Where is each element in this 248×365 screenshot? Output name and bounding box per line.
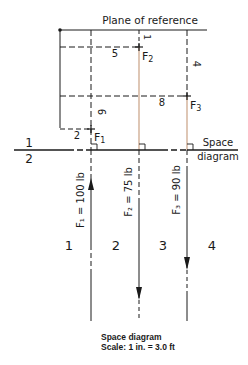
caption-title: Space diagram [101,332,162,342]
space-number-4: 4 [208,238,216,253]
f3-point-label: F3 [190,99,201,113]
plane-of-reference-label: Plane of reference [102,14,198,26]
f1-point-label: F1 [94,131,105,145]
space-number-3: 3 [159,238,167,253]
dim-f1-vertical: 6 [96,109,107,115]
right-angle-markers [91,144,193,150]
f1-arrowhead-up [88,178,94,190]
dim-f2-horizontal: 5 [112,48,118,59]
f2-point-label: F2 [142,50,153,64]
diagram-label: diagram [197,151,239,162]
left-space-label-2: 2 [25,152,33,166]
dim-f3-vertical: 4 [191,61,202,67]
space-number-1: 1 [65,238,73,253]
f3-arrowhead-down [184,257,190,270]
f3-value-label: F₃ = 90 lb [171,165,182,215]
caption-scale: Scale: 1 in. = 3.0 ft [101,342,175,352]
space-diagram: Plane of reference F1 F2 F3 2 6 5 1 8 4 … [0,0,248,365]
space-label: Space [203,137,233,148]
f1-value-label: F₁ = 100 lb [75,172,86,228]
f2-arrowhead-down [136,287,142,300]
f2-value-label: F₂ = 75 lb [123,167,134,217]
left-space-label-1: 1 [25,136,33,150]
dim-f3-horizontal: 8 [159,97,165,108]
dim-f1-horizontal: 2 [74,130,80,141]
dim-f2-vertical: 1 [142,34,152,40]
space-number-2: 2 [112,238,120,253]
